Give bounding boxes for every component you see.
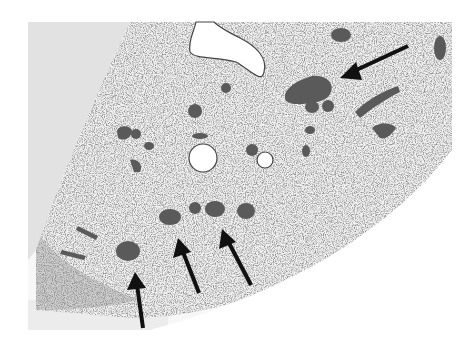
- micrograph-image: [0, 0, 476, 350]
